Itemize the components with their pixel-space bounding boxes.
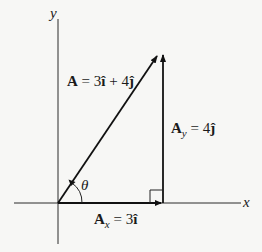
angle-theta-label: θ xyxy=(81,177,89,193)
vector-a-name: A xyxy=(67,73,78,89)
vector-ay-eq: = 4 xyxy=(187,120,211,136)
vector-a-plus: + 4 xyxy=(105,73,129,89)
vector-components-diagram: x y θ A = 3î + 4ĵ Ay = 4ĵ Ax = 3î xyxy=(0,0,262,252)
vector-a-eq: = 3 xyxy=(78,73,101,89)
vector-ay-name: A xyxy=(171,120,182,136)
vector-a-j-hat: ĵ xyxy=(128,73,135,89)
vector-ay-label: Ay = 4ĵ xyxy=(171,120,216,139)
right-angle-marker xyxy=(150,190,163,203)
vector-ax-label: Ax = 3î xyxy=(94,211,138,230)
vector-ax-name: A xyxy=(94,211,105,227)
vector-a-label: A = 3î + 4ĵ xyxy=(67,73,135,89)
vector-ax-eq: = 3 xyxy=(110,211,133,227)
y-axis-label: y xyxy=(48,5,57,21)
vector-ay-j-hat: ĵ xyxy=(209,120,216,136)
x-axis-label: x xyxy=(242,194,250,210)
vector-ax-i-hat: î xyxy=(132,211,138,227)
